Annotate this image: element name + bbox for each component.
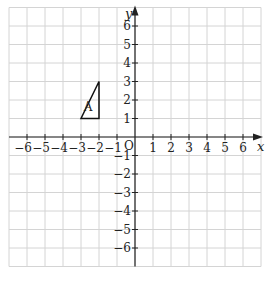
y-tick-label: 5 (123, 38, 131, 52)
x-tick-label: 6 (239, 141, 247, 155)
y-tick-label: −5 (113, 223, 131, 237)
coordinate-plane: xyO −6−5−4−3−2−1123456−6−5−4−3−2−1123456… (0, 0, 266, 282)
x-tick-label: −5 (32, 141, 50, 155)
x-tick-label: 3 (185, 141, 193, 155)
x-tick-label: −2 (86, 141, 104, 155)
x-tick-label: 1 (149, 141, 157, 155)
y-tick-label: 1 (123, 112, 131, 126)
x-axis-label: x (257, 139, 265, 154)
x-tick-label: 2 (167, 141, 175, 155)
y-tick-label: −2 (113, 167, 131, 181)
x-tick-label: 4 (203, 141, 211, 155)
y-tick-label: −1 (113, 149, 131, 163)
y-tick-label: 6 (123, 19, 131, 33)
y-tick-label: −6 (113, 241, 131, 255)
x-tick-label: 5 (221, 141, 229, 155)
y-tick-label: −4 (113, 204, 131, 218)
x-tick-label: −6 (14, 141, 32, 155)
y-tick-label: 3 (123, 75, 131, 89)
y-tick-label: −3 (113, 186, 131, 200)
x-tick-label: −4 (50, 141, 68, 155)
x-tick-label: −3 (68, 141, 86, 155)
shape-label: A (83, 100, 93, 114)
y-tick-label: 2 (123, 93, 131, 107)
y-tick-label: 4 (123, 56, 131, 70)
